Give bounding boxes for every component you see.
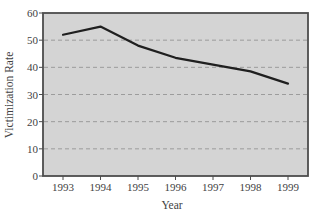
y-tick-label: 10 <box>0 143 38 155</box>
x-tick-label: 1995 <box>118 181 158 193</box>
x-tick-label: 1993 <box>43 181 83 193</box>
y-tick-label: 40 <box>0 61 38 73</box>
x-tick-label: 1998 <box>231 181 271 193</box>
victimization-rate-line-chart: Victimization Rate 0102030405060 1993199… <box>0 0 321 222</box>
x-tick-label: 1994 <box>81 181 121 193</box>
y-tick-label: 60 <box>0 7 38 19</box>
x-axis-tick-labels: 1993199419951996199719981999 <box>0 181 321 195</box>
y-tick-label: 50 <box>0 34 38 46</box>
y-tick-label: 30 <box>0 89 38 101</box>
x-tick-label: 1997 <box>193 181 233 193</box>
y-tick-label: 20 <box>0 116 38 128</box>
x-tick-label: 1996 <box>156 181 196 193</box>
x-tick-label: 1999 <box>268 181 308 193</box>
x-axis-title: Year <box>92 198 252 212</box>
